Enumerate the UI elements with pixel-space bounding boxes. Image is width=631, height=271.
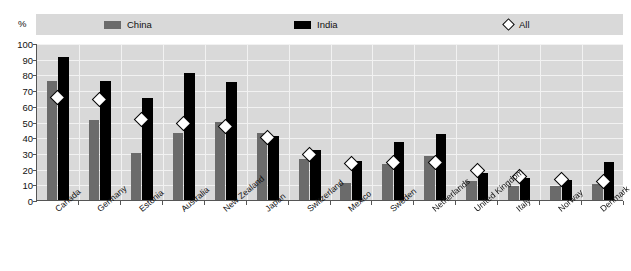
bar-group bbox=[79, 44, 121, 200]
bar-china bbox=[550, 186, 561, 200]
bar-china bbox=[173, 133, 184, 201]
bar-china bbox=[508, 186, 519, 200]
bar-group bbox=[414, 44, 456, 200]
x-axis-tick-mark bbox=[120, 201, 121, 205]
y-axis-tick-label: 60 bbox=[3, 101, 33, 112]
y-axis-tick-label: 80 bbox=[3, 70, 33, 81]
bar-group bbox=[205, 44, 247, 200]
y-axis-tick-label: 40 bbox=[3, 133, 33, 144]
x-axis-tick-mark bbox=[455, 201, 456, 205]
bar-group bbox=[37, 44, 79, 200]
x-axis-tick-mark bbox=[413, 201, 414, 205]
y-axis-tick-label: 90 bbox=[3, 54, 33, 65]
plot-area bbox=[36, 44, 623, 201]
bar-india bbox=[394, 142, 405, 200]
x-axis-tick-mark bbox=[581, 201, 582, 205]
x-axis-tick-mark bbox=[539, 201, 540, 205]
bar-india bbox=[226, 82, 237, 200]
bar-china bbox=[131, 153, 142, 200]
open-diamond-icon bbox=[502, 18, 515, 31]
bar-china bbox=[89, 120, 100, 200]
y-axis-tick-label: 10 bbox=[3, 180, 33, 191]
bar-group bbox=[331, 44, 373, 200]
x-axis-tick-mark bbox=[288, 201, 289, 205]
legend-item-china[interactable]: China bbox=[104, 14, 152, 35]
x-axis-tick-mark bbox=[497, 201, 498, 205]
x-axis-tick-mark bbox=[371, 201, 372, 205]
x-axis-tick-mark bbox=[330, 201, 331, 205]
bar-group bbox=[582, 44, 624, 200]
square-swatch-icon bbox=[104, 21, 121, 29]
bar-india bbox=[58, 57, 69, 200]
y-axis-tick-mark bbox=[33, 201, 37, 202]
bar-group bbox=[289, 44, 331, 200]
x-axis-tick-mark bbox=[246, 201, 247, 205]
chart-legend: ChinaIndiaAll bbox=[36, 14, 623, 35]
legend-item-label: India bbox=[317, 19, 338, 30]
bar-group bbox=[121, 44, 163, 200]
square-swatch-icon bbox=[294, 21, 311, 29]
y-axis-tick-label: 20 bbox=[3, 164, 33, 175]
y-axis: 0102030405060708090100 bbox=[0, 44, 33, 201]
x-axis-tick-mark bbox=[204, 201, 205, 205]
bar-india bbox=[184, 73, 195, 200]
y-axis-tick-label: 100 bbox=[3, 39, 33, 50]
x-axis-tick-mark bbox=[623, 201, 624, 205]
bar-india bbox=[268, 136, 279, 200]
y-axis-tick-label: 70 bbox=[3, 86, 33, 97]
y-axis-tick-label: 50 bbox=[3, 117, 33, 128]
legend-item-all[interactable]: All bbox=[504, 14, 530, 35]
bar-group bbox=[456, 44, 498, 200]
bar-china bbox=[382, 164, 393, 200]
bar-group bbox=[163, 44, 205, 200]
x-axis-tick-mark bbox=[162, 201, 163, 205]
bar-group bbox=[540, 44, 582, 200]
y-axis-tick-label: 0 bbox=[3, 196, 33, 207]
legend-item-india[interactable]: India bbox=[294, 14, 338, 35]
legend-item-label: All bbox=[519, 19, 530, 30]
bar-group bbox=[372, 44, 414, 200]
legend-item-label: China bbox=[127, 19, 152, 30]
y-axis-unit-label: % bbox=[18, 18, 26, 29]
y-axis-tick-label: 30 bbox=[3, 148, 33, 159]
x-axis-tick-mark bbox=[78, 201, 79, 205]
bar-china bbox=[299, 159, 310, 200]
chart-container: % ChinaIndiaAll 0102030405060708090100 C… bbox=[0, 0, 631, 271]
bar-group bbox=[247, 44, 289, 200]
